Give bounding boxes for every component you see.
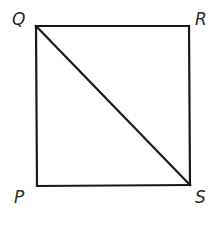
vertex-label-r: R xyxy=(195,9,207,29)
square-diagram: Q R P S xyxy=(0,0,211,227)
diagonal-qs xyxy=(36,26,190,185)
vertex-label-p: P xyxy=(14,187,25,207)
side-rs xyxy=(189,26,190,185)
vertex-label-s: S xyxy=(195,187,206,207)
vertex-label-q: Q xyxy=(12,9,25,29)
side-sp xyxy=(37,185,190,186)
side-pq xyxy=(36,26,37,186)
